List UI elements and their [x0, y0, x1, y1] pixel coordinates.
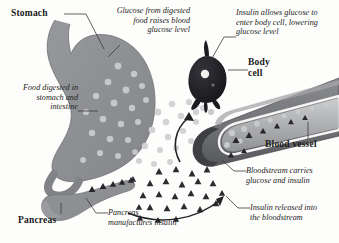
annotation-line: glucose and insulin	[246, 176, 338, 186]
annotation-line: glucose level	[236, 27, 338, 37]
annotation-glucose-raises: Glucose from digested food raises blood …	[78, 6, 190, 35]
annotation-line: food raises blood	[78, 16, 190, 26]
label-blood-vessel: Blood vessel	[265, 139, 317, 150]
label-line: Body	[248, 57, 308, 68]
annotation-line: Glucose from digested	[78, 6, 190, 16]
annotation-line: Insulin allows glucose to	[236, 8, 338, 18]
annotation-line: Pancreas	[108, 208, 212, 218]
annotation-insulin-allows: Insulin allows glucose to enter body cel…	[236, 8, 338, 37]
annotation-line: the bloodstream	[250, 213, 338, 223]
annotation-pancreas-manufactures: Pancreas manufactures insulin	[108, 208, 212, 227]
annotation-food-digested: Food digested in stomach and intestine	[2, 83, 78, 112]
label-line: cell	[248, 68, 308, 79]
annotation-line: Food digested in	[2, 83, 78, 93]
diagram-canvas: Stomach Glucose from digested food raise…	[0, 0, 339, 243]
label-stomach: Stomach	[11, 8, 48, 19]
annotation-insulin-released: Insulin released into the bloodstream	[250, 203, 338, 222]
annotation-line: Bloodstream carries	[246, 166, 338, 176]
annotation-line: stomach and	[2, 93, 78, 103]
annotation-line: manufactures insulin	[108, 218, 212, 228]
annotation-line: Insulin released into	[250, 203, 338, 213]
label-body-cell: Body cell	[248, 57, 308, 79]
label-pancreas: Pancreas	[18, 215, 56, 226]
annotation-line: enter body cell, lowering	[236, 18, 338, 28]
annotation-bloodstream-carries: Bloodstream carries glucose and insulin	[246, 166, 338, 185]
annotation-line: intestine	[2, 102, 78, 112]
annotation-line: glucose level	[78, 25, 190, 35]
